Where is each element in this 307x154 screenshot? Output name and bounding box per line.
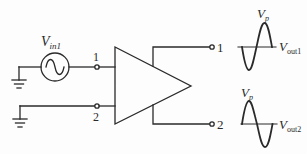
ground-icon bbox=[13, 106, 27, 127]
waveform2-peak-label: Vp bbox=[241, 85, 253, 102]
output-terminal-1 bbox=[210, 45, 214, 49]
waveform2-name-label: Vout2 bbox=[279, 117, 301, 134]
input-label-1: 1 bbox=[93, 50, 99, 64]
waveform1-name-label: Vout1 bbox=[279, 39, 301, 56]
wire-output2 bbox=[153, 105, 210, 124]
diagram-canvas: Vin1 1 2 1 2 Vp Vout1 Vp Vout2 bbox=[0, 0, 307, 154]
waveform-out2-icon bbox=[241, 101, 277, 147]
waveform-out1-icon bbox=[238, 23, 276, 70]
waveform1-peak-label: Vp bbox=[257, 6, 269, 23]
output-terminal-2 bbox=[210, 122, 214, 126]
source-label: Vin1 bbox=[41, 34, 61, 51]
ground-icon bbox=[12, 67, 26, 88]
circuit-diagram: Vin1 1 2 1 2 Vp Vout1 Vp Vout2 bbox=[0, 0, 307, 154]
ac-sine-source-icon bbox=[41, 53, 69, 81]
output-label-1: 1 bbox=[217, 40, 224, 55]
output-label-2: 2 bbox=[217, 117, 224, 132]
input-label-2: 2 bbox=[93, 110, 99, 124]
wire-output1 bbox=[153, 47, 210, 66]
